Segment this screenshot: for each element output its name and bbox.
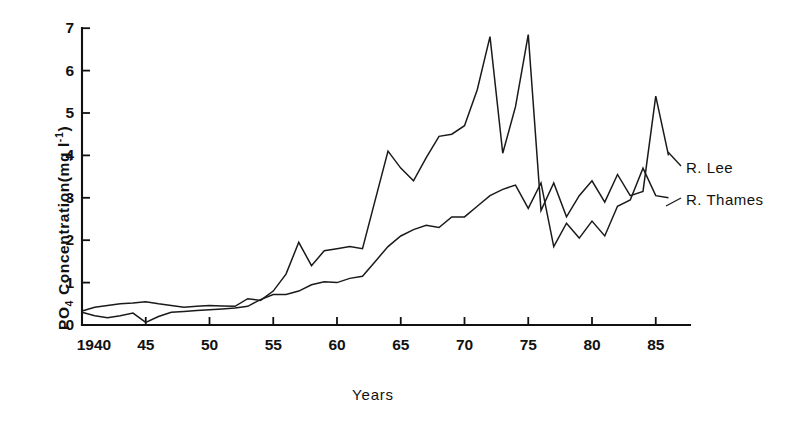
x-tick-label-60: 60 (324, 337, 350, 353)
series-line-r-thames (82, 168, 669, 322)
x-tick-label-65: 65 (388, 337, 414, 353)
x-tick-label-1940: 1940 (71, 337, 117, 353)
y-tick-label-4: 4 (48, 147, 74, 163)
y-tick-label-6: 6 (48, 63, 74, 79)
x-tick-label-80: 80 (579, 337, 605, 353)
y-tick-label-1: 1 (48, 275, 74, 291)
series-line-r-lee (82, 35, 669, 311)
y-tick-label-7: 7 (48, 20, 74, 36)
series-label-r-lee: R. Lee (686, 160, 733, 175)
x-tick-label-45: 45 (133, 337, 159, 353)
y-tick-label-5: 5 (48, 105, 74, 121)
series-label-r-thames: R. Thames (686, 192, 764, 207)
y-tick-label-2: 2 (48, 232, 74, 248)
x-axis-ticks (146, 317, 656, 325)
leader-line-r-thames (666, 198, 681, 206)
x-tick-label-75: 75 (515, 337, 541, 353)
leader-line-r-lee (668, 152, 681, 166)
y-tick-label-3: 3 (48, 190, 74, 206)
x-tick-label-70: 70 (452, 337, 478, 353)
y-tick-label-0: 0 (48, 317, 74, 333)
x-tick-label-55: 55 (260, 337, 286, 353)
x-tick-label-85: 85 (643, 337, 669, 353)
axes-group (82, 28, 690, 325)
x-tick-label-50: 50 (197, 337, 223, 353)
data-series-group (82, 35, 669, 323)
plot-canvas (0, 0, 804, 431)
y-axis-ticks (82, 28, 90, 325)
chart-figure: PO4 Concentration(mg l-1) Years 01234567… (0, 0, 804, 431)
